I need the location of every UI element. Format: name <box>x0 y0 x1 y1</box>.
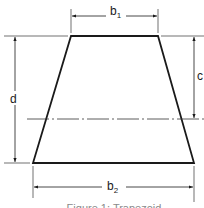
d-label: d <box>10 92 17 106</box>
b1-dimension: b1 <box>72 4 157 20</box>
d-dimension: d <box>7 37 23 162</box>
figure-caption: Figure 1: Trapezoid <box>67 202 162 208</box>
c-label: c <box>197 69 203 83</box>
extension-lines <box>4 9 204 202</box>
trapezoid-shape <box>33 36 194 163</box>
c-dimension: c <box>194 37 203 118</box>
b2-dimension: b2 <box>34 179 193 195</box>
b1-label-sub: 1 <box>117 11 122 20</box>
b2-label-sub: 2 <box>114 186 119 195</box>
trapezoid-diagram: b1 d c b2 Figure 1: Trapezoid <box>0 0 204 208</box>
